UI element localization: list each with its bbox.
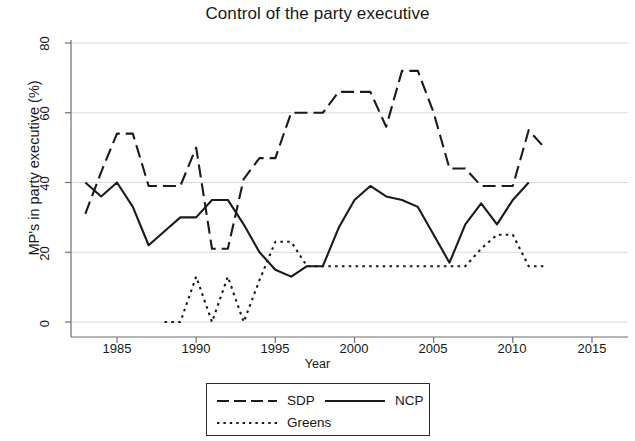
legend-swatch-sdp xyxy=(216,395,278,407)
legend-swatch-greens xyxy=(216,417,278,429)
series-line-sdp xyxy=(85,71,544,249)
legend: SDP NCP Greens xyxy=(206,383,430,436)
legend-label-greens: Greens xyxy=(287,415,331,430)
plot-area xyxy=(0,0,635,441)
axis-ticks xyxy=(65,43,592,343)
legend-label-sdp: SDP xyxy=(287,393,315,408)
gridlines xyxy=(71,43,628,322)
axis-lines xyxy=(71,40,628,337)
legend-swatch-ncp xyxy=(324,395,386,407)
chart-figure: Control of the party executive MP's in p… xyxy=(0,0,635,441)
series-line-greens xyxy=(165,235,545,322)
data-series-layer xyxy=(85,71,544,322)
legend-label-ncp: NCP xyxy=(395,393,424,408)
series-line-ncp xyxy=(85,183,528,277)
